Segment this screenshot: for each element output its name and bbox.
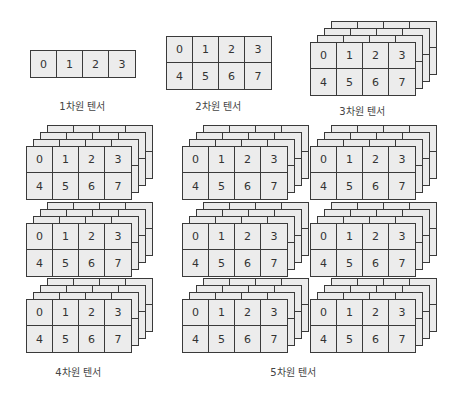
- tensor-cell: 1: [193, 37, 219, 63]
- tensor-cell: 2: [79, 300, 105, 326]
- tensor-5d-block-front-layer: 01234567: [182, 299, 288, 353]
- tensor-cell: 4: [27, 250, 53, 276]
- tensor-cell: 5: [53, 173, 79, 199]
- tensor-5d-block-front-layer: 01234567: [182, 146, 288, 200]
- tensor-cell: 5: [53, 250, 79, 276]
- tensor-cell: 4: [167, 63, 193, 89]
- tensor-cell: 3: [261, 300, 287, 326]
- tensor-cell: 2: [79, 224, 105, 250]
- tensor-cell: 5: [337, 173, 363, 199]
- tensor-5d-block-front-layer: 01234567: [310, 299, 416, 353]
- tensor-cell: 1: [209, 300, 235, 326]
- tensor-cell: 1: [337, 224, 363, 250]
- tensor-cell: 4: [311, 173, 337, 199]
- tensor-cell: 2: [219, 37, 245, 63]
- tensor-cell: 2: [79, 147, 105, 173]
- tensor-cell: 0: [311, 147, 337, 173]
- tensor-1d-grid: 0123: [30, 50, 136, 78]
- tensor-cell: 0: [27, 224, 53, 250]
- tensor-5d-block-front-layer: 01234567: [310, 223, 416, 277]
- tensor-cell: 4: [183, 326, 209, 352]
- tensor-cell: 0: [27, 300, 53, 326]
- tensor-cell: 0: [311, 300, 337, 326]
- tensor-3d-front-layer: 01234567: [310, 42, 416, 96]
- tensor-cell: 6: [235, 173, 261, 199]
- label-5d-tensor: 5차원 텐서: [270, 364, 316, 379]
- tensor-cell: 6: [363, 69, 389, 95]
- tensor-cell: 7: [261, 326, 287, 352]
- tensor-4d-block-front-layer: 01234567: [26, 146, 132, 200]
- tensor-4d-block-front-layer: 01234567: [26, 223, 132, 277]
- tensor-2d-grid: 01234567: [166, 36, 272, 90]
- tensor-cell: 7: [105, 173, 131, 199]
- tensor-cell: 5: [337, 250, 363, 276]
- tensor-cell: 1: [337, 147, 363, 173]
- tensor-cell: 6: [79, 250, 105, 276]
- tensor-cell: 3: [105, 224, 131, 250]
- tensor-cell: 2: [83, 51, 109, 77]
- tensor-cell: 3: [105, 300, 131, 326]
- tensor-cell: 1: [53, 300, 79, 326]
- tensor-cell: 7: [245, 63, 271, 89]
- tensor-cell: 5: [337, 326, 363, 352]
- tensor-cell: 2: [235, 147, 261, 173]
- tensor-cell: 3: [389, 300, 415, 326]
- tensor-4d-block-front-layer: 01234567: [26, 299, 132, 353]
- tensor-cell: 7: [389, 250, 415, 276]
- tensor-cell: 6: [219, 63, 245, 89]
- tensor-cell: 7: [389, 69, 415, 95]
- tensor-cell: 4: [311, 69, 337, 95]
- tensor-cell: 3: [261, 147, 287, 173]
- tensor-cell: 6: [79, 326, 105, 352]
- tensor-cell: 6: [363, 173, 389, 199]
- tensor-cell: 0: [27, 147, 53, 173]
- tensor-cell: 3: [389, 147, 415, 173]
- tensor-cell: 1: [209, 147, 235, 173]
- tensor-cell: 0: [311, 224, 337, 250]
- tensor-cell: 2: [363, 43, 389, 69]
- tensor-cell: 7: [261, 250, 287, 276]
- tensor-cell: 0: [311, 43, 337, 69]
- tensor-cell: 0: [183, 224, 209, 250]
- tensor-cell: 7: [389, 326, 415, 352]
- tensor-cell: 0: [183, 300, 209, 326]
- tensor-cell: 7: [389, 173, 415, 199]
- tensor-cell: 2: [235, 224, 261, 250]
- tensor-cell: 6: [363, 250, 389, 276]
- tensor-cell: 1: [337, 43, 363, 69]
- tensor-cell: 6: [235, 326, 261, 352]
- tensor-cell: 3: [389, 224, 415, 250]
- tensor-cell: 6: [79, 173, 105, 199]
- tensor-cell: 3: [245, 37, 271, 63]
- tensor-cell: 1: [209, 224, 235, 250]
- tensor-cell: 4: [27, 326, 53, 352]
- tensor-cell: 0: [31, 51, 57, 77]
- tensor-cell: 4: [311, 250, 337, 276]
- tensor-cell: 0: [167, 37, 193, 63]
- tensor-cell: 4: [311, 326, 337, 352]
- tensor-cell: 1: [337, 300, 363, 326]
- tensor-cell: 7: [105, 326, 131, 352]
- tensor-cell: 1: [53, 224, 79, 250]
- tensor-cell: 5: [209, 173, 235, 199]
- tensor-cell: 7: [105, 250, 131, 276]
- tensor-cell: 2: [363, 300, 389, 326]
- tensor-5d-block-front-layer: 01234567: [182, 223, 288, 277]
- label-2d-tensor: 2차원 텐서: [195, 98, 241, 113]
- label-4d-tensor: 4차원 텐서: [55, 364, 101, 379]
- tensor-cell: 4: [183, 173, 209, 199]
- tensor-5d-block-front-layer: 01234567: [310, 146, 416, 200]
- tensor-cell: 6: [235, 250, 261, 276]
- tensor-cell: 6: [363, 326, 389, 352]
- label-1d-tensor: 1차원 텐서: [59, 98, 105, 113]
- tensor-cell: 3: [261, 224, 287, 250]
- tensor-cell: 3: [105, 147, 131, 173]
- tensor-cell: 5: [209, 326, 235, 352]
- tensor-cell: 5: [209, 250, 235, 276]
- tensor-cell: 5: [53, 326, 79, 352]
- tensor-dimensions-diagram: 0123012345670123456701234567012345670123…: [0, 0, 462, 400]
- label-3d-tensor: 3차원 텐서: [339, 103, 385, 118]
- tensor-cell: 4: [183, 250, 209, 276]
- tensor-cell: 1: [53, 147, 79, 173]
- tensor-cell: 1: [57, 51, 83, 77]
